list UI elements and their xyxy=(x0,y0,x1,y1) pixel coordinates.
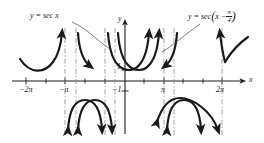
secant-graph-figure: y = sec x y = sec(x −π4) y x 1 −1 −2π −π… xyxy=(0,0,264,143)
y-tick-label-minus-1: −1 xyxy=(112,86,121,94)
label-sec-shift-text: y = sec xyxy=(188,12,211,21)
label-sec-shift-arg: x − xyxy=(215,12,226,21)
sec-shift-branch-left-up xyxy=(78,33,90,66)
sec-shift-branch-right-up xyxy=(165,33,177,66)
x-tick-label-pi: π xyxy=(161,86,165,94)
leader-lines xyxy=(72,22,200,52)
label-sec-x: y = sec x xyxy=(30,12,59,20)
x-tick-label-neg-pi: −π xyxy=(59,86,68,94)
x-axis-label: x xyxy=(249,75,253,84)
curve-sec-x xyxy=(20,33,248,71)
x-axis xyxy=(12,78,243,85)
label-sec-x-shifted: y = sec(x −π4) xyxy=(188,9,236,24)
label-close-paren: ) xyxy=(232,9,236,23)
y-axis-label: y xyxy=(118,14,122,23)
y-axis xyxy=(122,22,129,134)
curve-sec-x-lower xyxy=(68,100,201,130)
leader-right-label xyxy=(162,24,200,52)
sec-shift-branch-right-down xyxy=(157,98,218,130)
y-tick-label-1: 1 xyxy=(117,63,121,71)
x-tick-label-neg-2pi: −2π xyxy=(19,86,32,94)
label-sec-x-arg: x xyxy=(55,11,59,20)
label-sec-x-text: y = sec xyxy=(30,11,53,20)
sec-x-branch-right-down xyxy=(167,100,201,130)
sec-x-branch-left-up xyxy=(20,33,62,71)
sec-x-branch-right-up xyxy=(225,37,248,62)
x-tick-label-2pi: 2π xyxy=(216,86,224,94)
sec-x-branch-right-up-arrow xyxy=(220,33,225,62)
asymptotes xyxy=(65,28,222,136)
